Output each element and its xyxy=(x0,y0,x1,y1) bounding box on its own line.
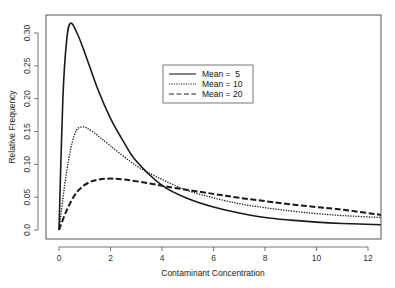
y-tick-label: 0.05 xyxy=(22,189,32,206)
x-tick-label: 10 xyxy=(312,253,322,263)
x-tick-label: 8 xyxy=(263,253,268,263)
series-group xyxy=(59,23,381,230)
series-line-dotted xyxy=(59,127,381,230)
x-axis-title: Contaminant Concentration xyxy=(161,268,265,278)
x-axis: 024681012 xyxy=(57,247,373,263)
y-tick-label: 0.25 xyxy=(22,57,32,74)
y-tick-label: 0.20 xyxy=(22,90,32,107)
plot-frame xyxy=(46,15,381,239)
y-axis: 0.00.050.100.150.200.250.30 xyxy=(22,24,38,235)
legend: Mean = 5 Mean = 10 Mean = 20 xyxy=(163,65,253,103)
chart: 0.00.050.100.150.200.250.30 024681012 Me… xyxy=(0,0,395,288)
x-tick-label: 4 xyxy=(160,253,165,263)
legend-label-mean10: Mean = 10 xyxy=(202,79,243,89)
y-tick-label: 0.10 xyxy=(22,156,32,173)
y-axis-title: Relative Frequency xyxy=(7,90,17,164)
y-tick-label: 0.15 xyxy=(22,123,32,140)
y-tick-label: 0.30 xyxy=(22,24,32,41)
y-tick-label: 0.0 xyxy=(22,224,32,236)
x-tick-label: 0 xyxy=(57,253,62,263)
x-tick-label: 6 xyxy=(211,253,216,263)
x-tick-label: 12 xyxy=(363,253,373,263)
legend-label-mean5: Mean = 5 xyxy=(202,69,240,79)
x-tick-label: 2 xyxy=(108,253,113,263)
legend-label-mean20: Mean = 20 xyxy=(202,89,243,99)
